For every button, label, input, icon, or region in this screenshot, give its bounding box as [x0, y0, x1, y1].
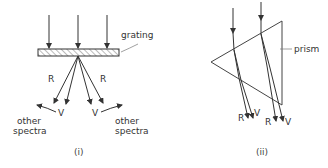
ray-label-v-2: V — [285, 117, 292, 127]
ray-label-r-1: R — [238, 113, 244, 123]
other-spectra-left-line2: spectra — [13, 126, 47, 136]
panel-grating: grating R R V V other spectra other spec… — [13, 15, 153, 157]
violet-ray-left — [66, 56, 78, 104]
violet-ray-2 — [261, 34, 283, 121]
ray-label-v-right: V — [92, 108, 99, 118]
diffraction-vs-dispersion-diagram: grating R R V V other spectra other spec… — [0, 0, 328, 168]
grating-plate — [38, 49, 119, 56]
violet-ray-1 — [234, 50, 253, 118]
incident-ray — [233, 33, 234, 50]
other-spectra-left-line1: other — [17, 116, 41, 126]
red-ray-2 — [261, 34, 276, 121]
ray-label-r-right: R — [100, 74, 106, 84]
other-spectra-right-line2: spectra — [115, 126, 149, 136]
grating-leader-line — [121, 44, 138, 52]
caption-ii: (ii) — [256, 147, 268, 157]
other-spectra-right-line1: other — [115, 116, 139, 126]
ray-label-v-1: V — [254, 108, 261, 118]
panel-prism: prism R V R V (ii) — [211, 2, 319, 157]
ray-label-v-left: V — [58, 108, 65, 118]
ray-label-r-left: R — [48, 74, 54, 84]
other-spectra-arrow-right — [101, 105, 122, 112]
violet-ray-right — [78, 56, 91, 104]
prism-label: prism — [294, 44, 319, 54]
other-spectra-arrow-left — [37, 105, 56, 112]
red-ray-left — [54, 56, 78, 103]
caption-i: (i) — [74, 147, 84, 157]
grating-label: grating — [121, 30, 153, 40]
ray-label-r-2: R — [265, 117, 271, 127]
